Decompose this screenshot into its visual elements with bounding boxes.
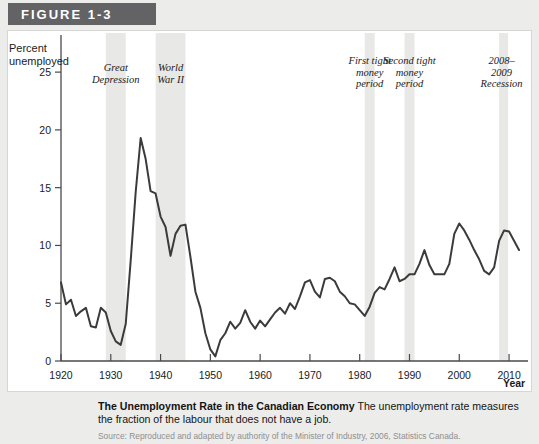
band-annotation-4: Recession <box>480 78 523 89</box>
x-tick-label: 1970 <box>298 369 322 381</box>
y-tick-label: 15 <box>39 182 51 194</box>
figure-number-label: FIGURE 1-3 <box>8 7 113 22</box>
x-tick-label: 1960 <box>248 369 272 381</box>
caption-title: The Unemployment Rate in the Canadian Ec… <box>98 400 355 412</box>
unemployment-rate-line <box>61 138 519 356</box>
band-annotation-2: money <box>356 67 384 78</box>
x-tick-label: 1950 <box>199 369 223 381</box>
y-tick-label: 10 <box>39 239 51 251</box>
x-tick-label: 1980 <box>348 369 372 381</box>
x-axis-title: Year <box>503 377 525 389</box>
figure-page: FIGURE 1-3 05101520251920193019401950196… <box>0 0 539 444</box>
x-tick-label: 1930 <box>99 369 123 381</box>
band-annotation-4: 2008– <box>488 55 515 66</box>
y-tick-label: 0 <box>45 355 51 367</box>
band-annotation-0: Great <box>104 62 129 73</box>
x-tick-label: 1940 <box>149 369 173 381</box>
band-annotation-3: money <box>396 67 424 78</box>
band-annotation-0: Depression <box>91 74 139 85</box>
band-annotation-3: Second tight <box>383 55 436 66</box>
y-axis-title: Percent unemployed <box>9 42 69 68</box>
figure-caption: The Unemployment Rate in the Canadian Ec… <box>98 400 530 427</box>
x-tick-label: 1920 <box>49 369 73 381</box>
figure-number-banner: FIGURE 1-3 <box>8 3 156 25</box>
band-annotation-1: World <box>158 62 184 73</box>
band-annotation-3: period <box>395 78 424 89</box>
chart-panel: 0510152025192019301940195019601970198019… <box>7 30 532 392</box>
unemployment-line-chart: 0510152025192019301940195019601970198019… <box>8 31 531 391</box>
band-annotation-4: 2009 <box>491 67 513 78</box>
band-annotation-1: War II <box>157 74 184 85</box>
x-tick-label: 1990 <box>398 369 422 381</box>
band-annotation-2: period <box>355 78 384 89</box>
x-tick-label: 2000 <box>448 369 472 381</box>
y-tick-label: 20 <box>39 124 51 136</box>
y-tick-label: 5 <box>45 297 51 309</box>
figure-source: Source: Reproduced and adapted by author… <box>98 431 530 441</box>
